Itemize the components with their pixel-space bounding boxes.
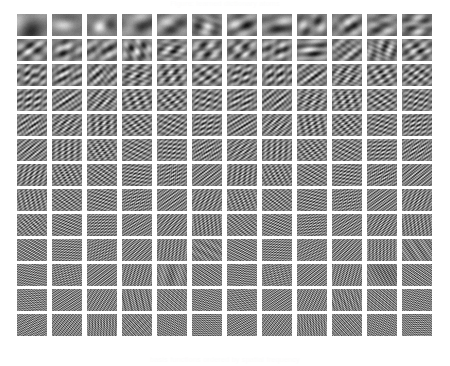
filter-atom-tile <box>17 264 47 286</box>
filter-atom-canvas <box>402 164 432 186</box>
filter-atom-tile <box>297 264 327 286</box>
filter-atom-tile <box>227 14 257 36</box>
filter-atom-canvas <box>332 139 362 161</box>
filter-atom-tile <box>122 289 152 311</box>
filter-atom-canvas <box>157 264 187 286</box>
filter-atom-canvas <box>367 14 397 36</box>
filter-atom-canvas <box>17 89 47 111</box>
filter-atom-tile <box>297 214 327 236</box>
filter-atom-canvas <box>87 264 117 286</box>
filter-atom-canvas <box>122 314 152 336</box>
filter-atom-canvas <box>227 64 257 86</box>
filter-atom-tile <box>157 189 187 211</box>
filter-atom-canvas <box>262 164 292 186</box>
filter-atom-canvas <box>332 289 362 311</box>
filter-atom-canvas <box>297 189 327 211</box>
filter-atom-canvas <box>332 114 362 136</box>
filter-atom-tile <box>367 164 397 186</box>
filter-atom-tile <box>367 114 397 136</box>
filter-atom-tile <box>367 64 397 86</box>
filter-atom-canvas <box>157 164 187 186</box>
filter-atom-canvas <box>157 239 187 261</box>
filter-atom-canvas <box>52 14 82 36</box>
filter-atom-canvas <box>367 89 397 111</box>
filter-atom-canvas <box>262 14 292 36</box>
filter-atom-tile <box>122 14 152 36</box>
filter-atom-tile <box>227 89 257 111</box>
filter-atom-canvas <box>402 264 432 286</box>
filter-atom-canvas <box>17 39 47 61</box>
filter-atom-tile <box>367 214 397 236</box>
filter-atom-tile <box>17 14 47 36</box>
filter-atom-tile <box>402 264 432 286</box>
filter-atom-tile <box>262 14 292 36</box>
filter-atom-tile <box>297 64 327 86</box>
filter-atom-tile <box>297 314 327 336</box>
filter-atom-canvas <box>122 39 152 61</box>
filter-atom-tile <box>122 264 152 286</box>
filter-atom-canvas <box>297 289 327 311</box>
filter-atom-tile <box>192 289 222 311</box>
filter-atom-canvas <box>17 264 47 286</box>
filter-atom-tile <box>122 89 152 111</box>
filter-atom-canvas <box>87 239 117 261</box>
filter-atom-canvas <box>297 89 327 111</box>
filter-atom-tile <box>192 189 222 211</box>
filter-atom-tile <box>227 39 257 61</box>
filter-atom-canvas <box>192 189 222 211</box>
filter-atom-tile <box>87 239 117 261</box>
filter-atom-tile <box>262 139 292 161</box>
filter-atom-canvas <box>227 89 257 111</box>
filter-atom-tile <box>122 164 152 186</box>
filter-atom-canvas <box>52 89 82 111</box>
filter-atom-canvas <box>157 189 187 211</box>
filter-atom-tile <box>87 289 117 311</box>
filter-atom-canvas <box>262 39 292 61</box>
filter-atom-tile <box>157 114 187 136</box>
filter-atom-tile <box>367 189 397 211</box>
filter-atom-canvas <box>367 64 397 86</box>
filter-atom-tile <box>227 139 257 161</box>
filter-atom-tile <box>17 114 47 136</box>
filter-atom-tile <box>332 214 362 236</box>
filter-atom-canvas <box>122 114 152 136</box>
filter-atom-canvas <box>52 289 82 311</box>
filter-atom-tile <box>402 214 432 236</box>
filter-atom-tile <box>332 314 362 336</box>
filter-atom-canvas <box>297 264 327 286</box>
filter-atom-tile <box>52 89 82 111</box>
filter-atom-tile <box>87 89 117 111</box>
filter-atom-tile <box>332 289 362 311</box>
filter-atom-canvas <box>262 314 292 336</box>
filter-atom-tile <box>192 314 222 336</box>
filter-atom-canvas <box>52 264 82 286</box>
filter-atom-tile <box>332 39 362 61</box>
filter-atom-canvas <box>87 139 117 161</box>
filter-atom-tile <box>297 89 327 111</box>
filter-atom-tile <box>367 239 397 261</box>
filter-atom-tile <box>367 289 397 311</box>
filter-atom-tile <box>87 214 117 236</box>
filter-atom-canvas <box>52 164 82 186</box>
filter-atom-tile <box>192 14 222 36</box>
filter-atom-canvas <box>157 289 187 311</box>
filter-atom-canvas <box>192 164 222 186</box>
filter-atom-canvas <box>157 114 187 136</box>
filter-atom-tile <box>122 39 152 61</box>
filter-atom-canvas <box>122 189 152 211</box>
filter-atom-tile <box>192 114 222 136</box>
filter-atom-canvas <box>17 239 47 261</box>
filter-atom-tile <box>367 89 397 111</box>
filter-atom-tile <box>332 164 362 186</box>
filter-atom-tile <box>367 14 397 36</box>
filter-atom-canvas <box>262 89 292 111</box>
filter-atom-tile <box>262 189 292 211</box>
filter-atom-tile <box>17 164 47 186</box>
filter-atom-canvas <box>192 314 222 336</box>
filter-atom-canvas <box>157 89 187 111</box>
filter-atom-tile <box>227 314 257 336</box>
filter-atom-canvas <box>52 214 82 236</box>
filter-atom-tile <box>192 214 222 236</box>
filter-atom-canvas <box>17 164 47 186</box>
filter-atom-tile <box>17 239 47 261</box>
